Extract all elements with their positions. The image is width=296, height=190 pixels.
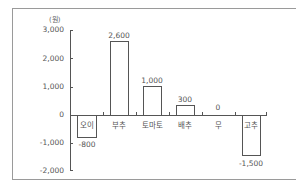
x-tick [103,112,104,115]
value-label: -1,500 [231,159,271,168]
y-tick [70,58,73,59]
x-axis [70,115,267,116]
y-tick [70,87,73,88]
x-tick [169,112,170,115]
x-tick [136,112,137,115]
y-tick-label: 3,000 [14,25,64,34]
y-tick-label: -2,000 [14,166,64,175]
y-axis [70,30,71,170]
bar-cabbage [176,105,195,116]
y-tick-label: 2,000 [14,54,64,63]
value-label: 0 [198,103,238,112]
x-tick [202,112,203,115]
y-tick-label: -1,000 [14,138,64,147]
value-label: -800 [67,140,107,149]
y-axis-unit-label: (원) [49,14,60,24]
value-label: 1,000 [132,76,172,85]
value-label: 2,600 [99,31,139,40]
y-tick [70,30,73,31]
bar-tomato [143,86,162,116]
bar-chives [110,41,129,116]
category-label: 고추 [231,119,271,130]
x-tick [235,112,236,115]
y-tick [70,170,73,171]
y-tick-label: 0 [14,110,64,119]
x-tick [266,112,267,115]
y-tick-label: 1,000 [14,82,64,91]
